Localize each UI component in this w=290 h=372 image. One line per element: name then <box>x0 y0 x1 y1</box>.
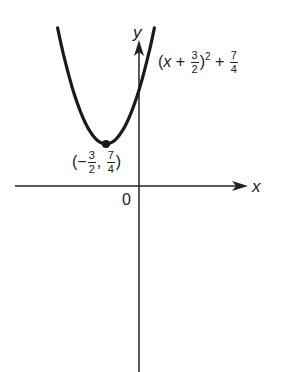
vertex-comma: , <box>97 153 101 170</box>
frac-den: 2 <box>192 63 198 75</box>
y-axis-label: y <box>133 24 142 41</box>
eq-fraction-7-4: 74 <box>230 50 238 75</box>
frac-den: 4 <box>108 163 114 175</box>
frac-num: 7 <box>107 150 115 163</box>
vertex-close: ) <box>116 153 121 170</box>
eq-plus-2: + <box>215 53 224 70</box>
vertex-fraction-y: 74 <box>107 150 115 175</box>
curve-equation-label: (x + 32)2 + 74 <box>158 50 239 75</box>
x-axis-label: x <box>252 178 261 195</box>
eq-plus-1: + <box>176 53 185 70</box>
vertex-fraction-x: 32 <box>88 150 96 175</box>
vertex-open: (− <box>72 153 87 170</box>
frac-den: 2 <box>89 163 95 175</box>
frac-num: 3 <box>191 50 199 63</box>
vertex-point <box>102 140 110 148</box>
origin-label: 0 <box>122 192 131 208</box>
eq-fraction-3-2: 32 <box>191 50 199 75</box>
frac-num: 3 <box>88 150 96 163</box>
frac-num: 7 <box>230 50 238 63</box>
plot-area <box>0 0 290 372</box>
eq-exponent: 2 <box>205 51 211 62</box>
eq-x: x <box>163 53 171 70</box>
frac-den: 4 <box>231 63 237 75</box>
vertex-label: (−32, 74) <box>72 150 121 175</box>
